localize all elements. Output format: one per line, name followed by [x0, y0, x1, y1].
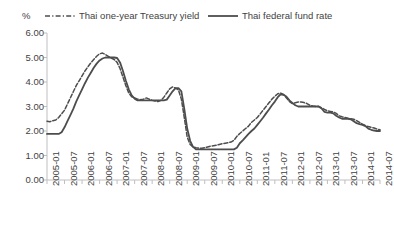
x-axis-tick-label: 2014-07 [384, 151, 394, 186]
x-axis-tick-label: 2010-07 [244, 151, 254, 186]
x-axis-tick-label: 2011-07 [279, 152, 289, 186]
x-axis-tick-label: 2013-07 [349, 151, 359, 186]
x-axis-tick-label: 2006-01 [86, 151, 96, 186]
x-axis-tick-label: 2011-01 [261, 152, 271, 186]
x-axis-tick-label: 2007-01 [121, 151, 131, 186]
x-axis-tick-label: 2009-07 [209, 151, 219, 186]
x-axis-tick-label: 2005-07 [69, 151, 79, 186]
x-axis-tick-label: 2007-07 [139, 151, 149, 186]
x-axis-tick-label: 2008-07 [174, 151, 184, 186]
x-axis-tick-label: 2008-01 [156, 151, 166, 186]
x-axis-tick-label: 2012-07 [314, 151, 324, 186]
x-axis-tick-label: 2009-01 [191, 151, 201, 186]
x-axis-tick-label: 2012-01 [296, 151, 306, 186]
x-axis-tick-label: 2005-01 [51, 151, 61, 186]
x-axis-tick-label: 2006-07 [104, 151, 114, 186]
x-axis-tick-label: 2010-01 [226, 151, 236, 186]
x-axis-tick-label: 2014-01 [366, 151, 376, 186]
x-axis-tick-label: 2013-01 [331, 151, 341, 186]
